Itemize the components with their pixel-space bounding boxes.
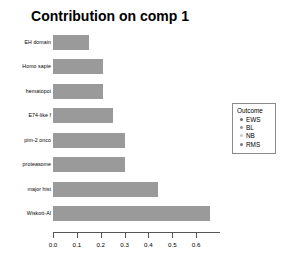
legend-item: RMS <box>240 141 271 148</box>
bar <box>53 157 125 172</box>
legend-item-label: RMS <box>246 141 260 148</box>
legend-title: Outcome <box>237 107 271 114</box>
x-axis-tick-label: 0.0 <box>49 241 58 248</box>
bar <box>53 206 210 221</box>
bar-row <box>53 206 220 221</box>
bar-row <box>53 59 220 74</box>
bar <box>53 182 158 197</box>
bar <box>53 84 103 99</box>
bar <box>53 59 103 74</box>
x-axis-tick <box>125 232 126 238</box>
x-axis <box>53 232 220 240</box>
legend: Outcome EWSBLNBRMS <box>232 103 276 154</box>
x-axis-line <box>53 232 220 233</box>
category-label: pim-2 onco <box>1 137 51 143</box>
x-axis-tick-label: 0.5 <box>168 241 177 248</box>
bar-row <box>53 35 220 50</box>
legend-item: BL <box>240 124 271 131</box>
x-axis-tick <box>53 232 54 238</box>
legend-marker-icon <box>240 126 243 129</box>
chart-title: Contribution on comp 1 <box>0 8 220 24</box>
x-axis-tick-label: 0.2 <box>96 241 105 248</box>
legend-marker-icon <box>240 118 243 121</box>
category-label: proteasome <box>1 161 51 167</box>
bar-row <box>53 157 220 172</box>
x-axis-tick-label: 0.6 <box>192 241 201 248</box>
x-axis-tick <box>77 232 78 238</box>
x-axis-tick-label: 0.1 <box>73 241 82 248</box>
legend-item-label: BL <box>246 124 254 131</box>
x-axis-tick-label: 0.3 <box>120 241 129 248</box>
category-label: Homo sapie <box>1 63 51 69</box>
bar <box>53 35 89 50</box>
x-axis-tick <box>148 232 149 238</box>
legend-item-label: NB <box>246 132 255 139</box>
bar-row <box>53 182 220 197</box>
bar <box>53 133 125 148</box>
category-label: hematopoi <box>1 88 51 94</box>
category-label: major hist <box>1 186 51 192</box>
category-label: E74-like f <box>1 112 51 118</box>
bar-chart: Contribution on comp 1 EH domainHomo sap… <box>0 0 286 270</box>
category-label: EH domain <box>1 39 51 45</box>
legend-items: EWSBLNBRMS <box>237 116 271 148</box>
category-label: Wiskott-Al <box>1 210 51 216</box>
bar-row <box>53 108 220 123</box>
legend-item-label: EWS <box>246 116 261 123</box>
x-axis-tick <box>101 232 102 238</box>
bar <box>53 108 113 123</box>
legend-marker-icon <box>240 143 243 146</box>
x-axis-tick <box>172 232 173 238</box>
legend-item: EWS <box>240 116 271 123</box>
x-axis-tick <box>196 232 197 238</box>
plot-area <box>53 30 220 226</box>
x-axis-tick-label: 0.4 <box>144 241 153 248</box>
legend-marker-icon <box>240 134 243 137</box>
legend-item: NB <box>240 132 271 139</box>
bar-row <box>53 133 220 148</box>
bar-row <box>53 84 220 99</box>
category-axis-labels: EH domainHomo sapiehematopoiE74-like fpi… <box>0 30 51 226</box>
